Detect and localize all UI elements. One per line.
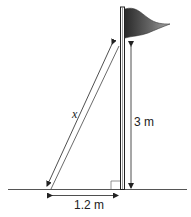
hypotenuse-arrow [47, 44, 112, 186]
hypotenuse-label: x [72, 107, 77, 122]
flagpole-diagram [0, 0, 191, 217]
rope [51, 46, 119, 189]
right-angle-marker [111, 181, 120, 189]
flag-icon [125, 8, 170, 38]
height-label: 3 m [134, 115, 154, 129]
base-label: 1.2 m [74, 198, 104, 212]
